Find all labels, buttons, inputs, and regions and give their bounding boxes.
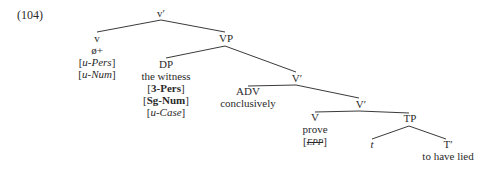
node-v: v ø+ [u-Pers] [u-Num] <box>78 32 115 80</box>
feature-u-pers: [u-Pers] <box>78 56 115 68</box>
feature-sg-num: [Sg-Num] <box>141 94 190 106</box>
node-Vbar2: V′ <box>356 98 366 110</box>
node-DP-label: DP <box>141 58 190 70</box>
node-ADV-label: ADV <box>220 85 276 97</box>
node-V-text: prove <box>302 123 327 135</box>
node-trace: t <box>370 138 373 150</box>
example-number: (104) <box>17 8 43 23</box>
node-VP: VP <box>219 32 233 44</box>
node-V-label: V <box>302 111 327 123</box>
feature-u-case: [u-Case] <box>141 106 190 118</box>
node-vbar: v′ <box>157 7 165 19</box>
syntax-tree-diagram: (104) v′ v ø+ [u-Pers] [u-Num] VP DP the… <box>0 0 487 170</box>
node-ADV-text: conclusively <box>220 97 276 109</box>
node-V: V prove [EPP] <box>302 111 327 148</box>
node-Tbar-text: to have lied <box>422 150 473 162</box>
feature-u-num: [u-Num] <box>78 68 115 80</box>
node-ADV: ADV conclusively <box>220 85 276 109</box>
node-DP-text: the witness <box>141 70 190 82</box>
feature-3-pers: [3-Pers] <box>141 82 190 94</box>
node-v-null-morpheme: ø+ <box>78 44 115 56</box>
node-v-label: v <box>78 32 115 44</box>
node-Tbar: T′ to have lied <box>422 138 473 162</box>
node-DP: DP the witness [3-Pers] [Sg-Num] [u-Case… <box>141 58 190 118</box>
feature-epp-struck: [EPP] <box>302 135 327 148</box>
node-Tbar-label: T′ <box>422 138 473 150</box>
node-TP: TP <box>404 112 417 124</box>
node-Vbar1: V′ <box>292 72 302 84</box>
